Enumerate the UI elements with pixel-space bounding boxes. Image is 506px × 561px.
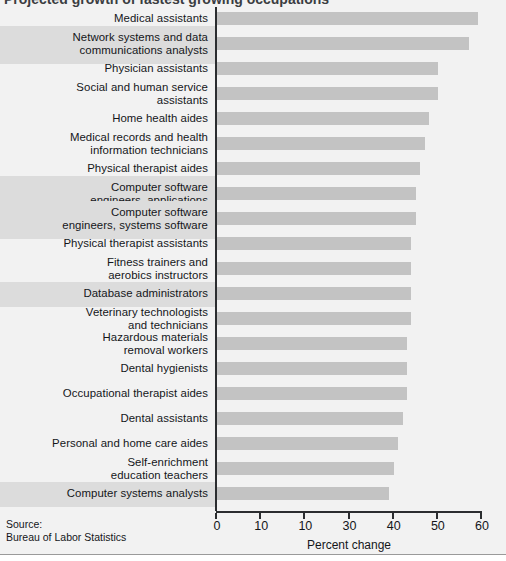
x-axis-title: Percent change bbox=[216, 538, 482, 552]
bar bbox=[217, 287, 411, 300]
bar bbox=[217, 162, 420, 175]
bar bbox=[217, 487, 389, 500]
bar bbox=[217, 462, 394, 475]
table-row: Personal and home care aides bbox=[0, 432, 506, 457]
row-label-line-2: communications analysts bbox=[0, 44, 208, 57]
table-row: Physician assistants bbox=[0, 57, 506, 82]
table-row: Medical records and healthinformation te… bbox=[0, 132, 506, 157]
x-axis-tick-label: 10 bbox=[285, 519, 325, 534]
plot-area: Medical assistantsNetwork systems and da… bbox=[0, 7, 506, 509]
clipped-chart-title: Projected growth of fastest growing occu… bbox=[0, 0, 506, 7]
x-axis-tick-label: 60 bbox=[462, 519, 502, 534]
row-label: Veterinary technologistsand technicians bbox=[0, 306, 208, 331]
row-label-line-2: aerobics instructors bbox=[0, 269, 208, 282]
row-label: Occupational therapist aides bbox=[0, 387, 208, 400]
bar bbox=[217, 412, 403, 425]
bar bbox=[217, 337, 407, 350]
table-row: Self-enrichmenteducation teachers bbox=[0, 457, 506, 482]
row-label-line-1: Physical therapist aides bbox=[87, 162, 208, 174]
table-row: Computer softwareengineers, systems soft… bbox=[0, 207, 506, 232]
x-axis-tick-label: 30 bbox=[330, 519, 370, 534]
row-label: Fitness trainers andaerobics instructors bbox=[0, 256, 208, 281]
source-name: Bureau of Labor Statistics bbox=[6, 531, 126, 544]
row-label-line-1: Medical assistants bbox=[114, 12, 208, 24]
row-label-line-1: Computer software bbox=[111, 181, 208, 193]
row-label-line-1: Hazardous materials bbox=[103, 331, 208, 343]
row-label-line-2: removal workers bbox=[0, 344, 208, 357]
clipped-chart-title-text: Projected growth of fastest growing occu… bbox=[4, 0, 329, 6]
row-label: Computer softwareengineers, systems soft… bbox=[0, 206, 208, 231]
row-label-line-1: Personal and home care aides bbox=[52, 437, 208, 449]
x-axis-tick-label: 40 bbox=[374, 519, 414, 534]
table-row: Veterinary technologistsand technicians bbox=[0, 307, 506, 332]
row-label: Physical therapist assistants bbox=[0, 237, 208, 250]
row-label: Hazardous materialsremoval workers bbox=[0, 331, 208, 356]
row-label: Self-enrichmenteducation teachers bbox=[0, 456, 208, 481]
bar bbox=[217, 137, 425, 150]
row-label-line-1: Self-enrichment bbox=[127, 456, 208, 468]
x-axis-tick-label: 50 bbox=[418, 519, 458, 534]
y-axis-line bbox=[215, 7, 217, 511]
bar bbox=[217, 87, 438, 100]
row-label-line-2: information technicians bbox=[0, 144, 208, 157]
row-label-line-1: Computer software bbox=[111, 206, 208, 218]
bar bbox=[217, 312, 411, 325]
row-label-line-1: Computer systems analysts bbox=[67, 487, 208, 499]
bar bbox=[217, 112, 429, 125]
bar bbox=[217, 262, 411, 275]
table-row: Social and human serviceassistants bbox=[0, 82, 506, 107]
row-label-line-1: Network systems and data bbox=[73, 31, 208, 43]
table-row: Database administrators bbox=[0, 282, 506, 307]
table-row: Dental assistants bbox=[0, 407, 506, 432]
row-label-line-2: education teachers bbox=[0, 469, 208, 482]
row-label: Social and human serviceassistants bbox=[0, 81, 208, 106]
table-row: Hazardous materialsremoval workers bbox=[0, 332, 506, 357]
table-row: Fitness trainers andaerobics instructors bbox=[0, 257, 506, 282]
row-label: Database administrators bbox=[0, 287, 208, 300]
bar bbox=[217, 212, 416, 225]
row-label-line-2: assistants bbox=[0, 94, 208, 107]
bar bbox=[217, 12, 478, 25]
row-label: Medical assistants bbox=[0, 12, 208, 25]
x-axis-tick-label: 10 bbox=[241, 519, 281, 534]
source-note: Source: Bureau of Labor Statistics bbox=[6, 518, 126, 543]
row-label-line-1: Dental hygienists bbox=[120, 362, 208, 374]
table-row: Home health aides bbox=[0, 107, 506, 132]
table-row: Physical therapist assistants bbox=[0, 232, 506, 257]
chart-page: Projected growth of fastest growing occu… bbox=[0, 0, 506, 561]
row-label: Dental hygienists bbox=[0, 362, 208, 375]
row-label-line-1: Medical records and health bbox=[70, 131, 208, 143]
row-label: Physical therapist aides bbox=[0, 162, 208, 175]
row-label-line-1: Physician assistants bbox=[104, 62, 208, 74]
bar bbox=[217, 62, 438, 75]
row-label-line-1: Fitness trainers and bbox=[107, 256, 208, 268]
table-row: Occupational therapist aides bbox=[0, 382, 506, 407]
row-label-line-2: and technicians bbox=[0, 319, 208, 332]
row-label: Physician assistants bbox=[0, 62, 208, 75]
row-label-line-1: Home health aides bbox=[112, 112, 208, 124]
bar bbox=[217, 362, 407, 375]
x-axis-tick-label: 0 bbox=[197, 519, 237, 534]
row-label: Personal and home care aides bbox=[0, 437, 208, 450]
row-label-line-1: Physical therapist assistants bbox=[63, 237, 208, 249]
source-label: Source: bbox=[6, 518, 126, 531]
row-label: Network systems and datacommunications a… bbox=[0, 31, 208, 56]
row-label-line-1: Database administrators bbox=[83, 287, 208, 299]
row-label-line-1: Occupational therapist aides bbox=[63, 387, 208, 399]
row-label: Medical records and healthinformation te… bbox=[0, 131, 208, 156]
row-label-line-1: Social and human service bbox=[76, 81, 208, 93]
row-label: Dental assistants bbox=[0, 412, 208, 425]
row-label-line-1: Veterinary technologists bbox=[86, 306, 208, 318]
row-label-line-2: engineers, systems software bbox=[0, 219, 208, 232]
bar bbox=[217, 187, 416, 200]
bottom-margin bbox=[0, 555, 506, 561]
table-row: Dental hygienists bbox=[0, 357, 506, 382]
bar bbox=[217, 237, 411, 250]
bar bbox=[217, 37, 469, 50]
table-row: Computer systems analysts bbox=[0, 482, 506, 507]
bar bbox=[217, 437, 398, 450]
row-label: Home health aides bbox=[0, 112, 208, 125]
bar bbox=[217, 387, 407, 400]
row-label: Computer systems analysts bbox=[0, 487, 208, 500]
row-label-line-1: Dental assistants bbox=[120, 412, 208, 424]
